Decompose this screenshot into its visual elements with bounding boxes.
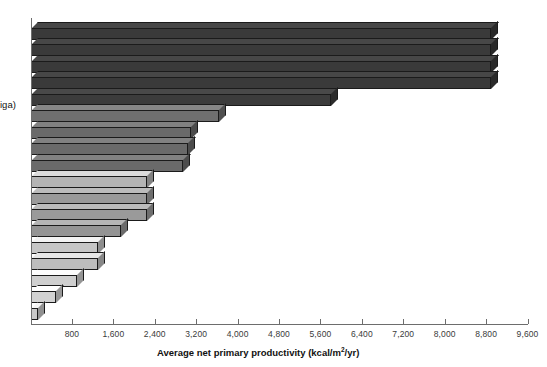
bar-16 [31,269,84,282]
bar-5 [31,88,337,101]
plot-area: 8001,6002,4003,2004,0004,8005,6006,4007,… [0,0,547,367]
bar-13 [31,219,128,232]
x-axis-line [31,324,528,325]
bar-8 [31,137,195,150]
bar-18 [31,302,45,315]
x-axis-label-main: Average net primary productivity (kcal/m [157,347,341,358]
x-axis-label: Average net primary productivity (kcal/m… [157,346,359,358]
bar-4 [31,71,498,84]
npp-bar-chart: 8001,6002,4003,2004,0004,8005,6006,4007,… [0,0,547,367]
x-tick-9600 [528,319,529,324]
bar-3 [31,55,498,68]
bar-15 [31,252,104,265]
x-tick-label-9600: 9,600 [498,329,547,339]
bar-6 [31,104,226,117]
bar-12 [31,203,153,216]
y-axis-label: iga) [0,99,16,110]
bar-2 [31,38,498,51]
bar-14 [31,236,104,249]
x-axis-label-tail: /yr) [345,347,360,358]
bar-7 [31,121,197,134]
bar-17 [31,285,63,298]
bar-10 [31,170,153,183]
y-axis-line [31,18,32,324]
bar-1 [31,22,498,35]
bar-9 [31,154,190,167]
bar-front-face [31,308,39,320]
bar-11 [31,187,153,200]
